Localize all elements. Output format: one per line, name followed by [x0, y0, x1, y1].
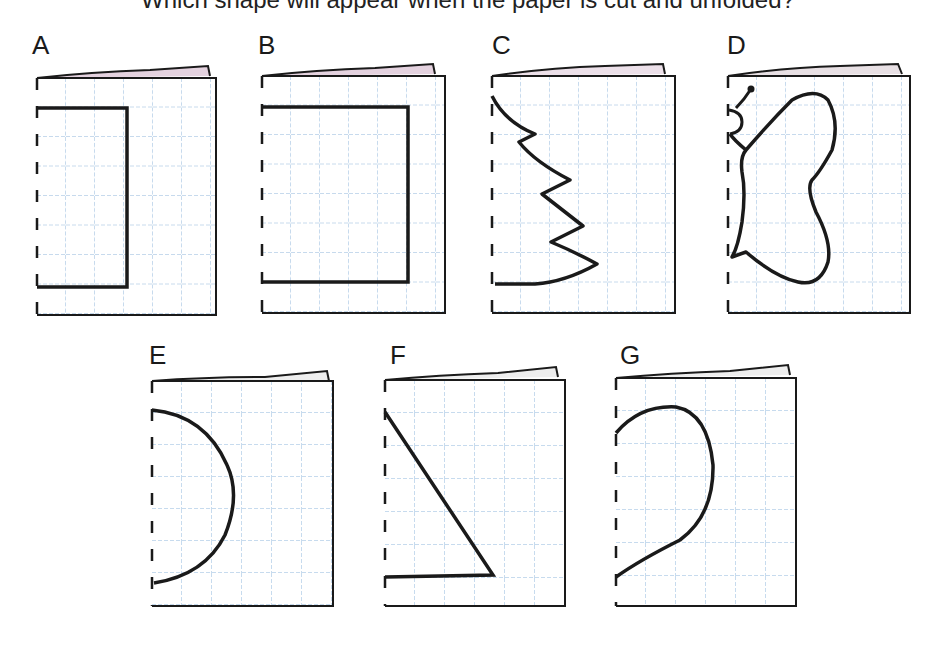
panel-label-d: D — [727, 30, 746, 61]
cutoff-instruction-text: Which shape will appear when the paper i… — [0, 0, 936, 14]
panel-label-b: B — [258, 30, 275, 61]
panel-c-folded-paper — [485, 62, 685, 324]
panel-a-folded-paper — [30, 62, 230, 324]
panel-label-a: A — [32, 30, 49, 61]
panel-e-folded-paper — [145, 365, 345, 615]
panel-d-folded-paper — [720, 62, 920, 324]
panel-f-folded-paper — [378, 365, 578, 615]
panel-label-c: C — [492, 30, 511, 61]
panel-g-folded-paper — [610, 365, 810, 615]
panel-b-folded-paper — [255, 62, 455, 324]
